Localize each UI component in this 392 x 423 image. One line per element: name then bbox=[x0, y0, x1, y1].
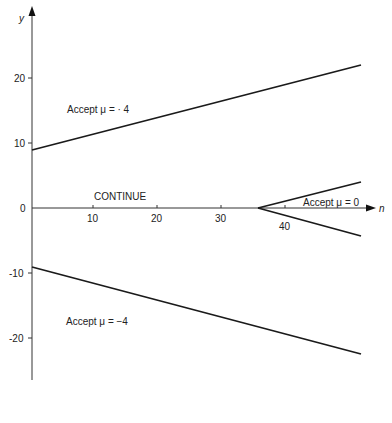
x-tick-10: 10 bbox=[87, 213, 99, 224]
lower-boundary-line bbox=[32, 267, 361, 354]
y-tick-neg10: -10 bbox=[9, 268, 24, 279]
y-tick-10: 10 bbox=[14, 138, 26, 149]
accept-negative-label: Accept μ = −4 bbox=[66, 316, 128, 327]
y-tick-0: 0 bbox=[20, 203, 26, 214]
y-tick-20: 20 bbox=[14, 73, 26, 84]
inner-lower-boundary-line bbox=[258, 208, 361, 236]
sequential-test-chart: y n 20 10 0 -10 -20 10 20 30 40 Accept μ… bbox=[0, 0, 392, 423]
x-axis-arrow-icon bbox=[366, 205, 376, 212]
accept-positive-label: Accept μ = · 4 bbox=[67, 104, 130, 115]
continue-label: CONTINUE bbox=[94, 191, 147, 202]
x-axis-label: n bbox=[379, 203, 385, 214]
accept-zero-label: Accept μ = 0 bbox=[303, 197, 360, 208]
y-tick-neg20: -20 bbox=[9, 333, 24, 344]
x-tick-30: 30 bbox=[215, 213, 227, 224]
x-tick-20: 20 bbox=[151, 213, 163, 224]
y-axis-label: y bbox=[18, 13, 25, 24]
y-axis-arrow-icon bbox=[29, 6, 36, 16]
x-tick-40: 40 bbox=[279, 221, 291, 232]
